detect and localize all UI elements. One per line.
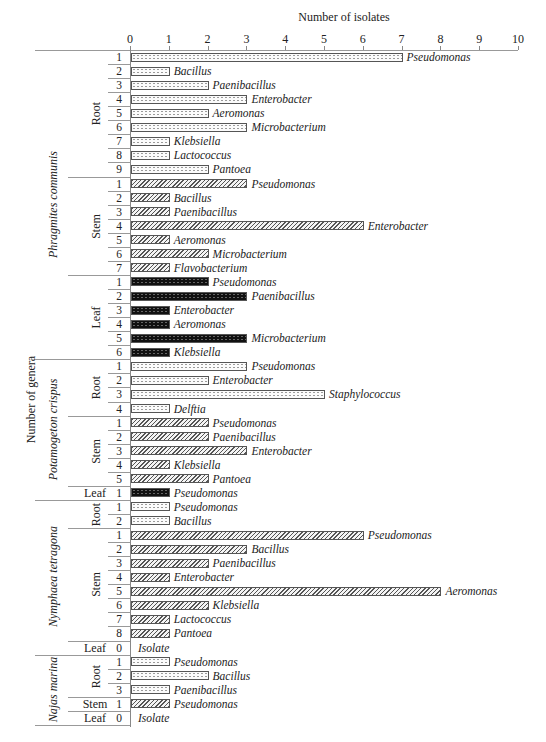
bar-stem [131, 249, 209, 258]
organ-label: Stem [75, 697, 115, 712]
x-tick-label: 0 [120, 32, 140, 47]
bar-root [131, 81, 209, 90]
bar-stem [131, 207, 170, 216]
genus-label: Pseudomonas [407, 50, 471, 64]
row-number: 1 [112, 177, 126, 191]
organ-label: Leaf [75, 711, 115, 726]
bar-stem [131, 629, 170, 638]
row-number: 6 [112, 247, 126, 261]
x-tick-label: 2 [198, 32, 218, 47]
x-tick-label: 8 [430, 32, 450, 47]
bar-root [131, 390, 325, 399]
genus-label: Bacillus [174, 514, 212, 528]
bar-root [131, 109, 209, 118]
row-number: 4 [112, 219, 126, 233]
genus-label: Enterobacter [174, 570, 234, 584]
bar-root [131, 657, 170, 666]
bar-root [131, 404, 170, 413]
genus-label: Enterobacter [251, 92, 311, 106]
row-number: 3 [112, 387, 126, 401]
species-label: Phragmites communis [46, 124, 61, 284]
organ-label: Stem [89, 426, 104, 476]
genus-label: Delftia [174, 402, 206, 416]
species-label: Najas marina [46, 609, 61, 742]
genus-label: Lactococcus [174, 148, 231, 162]
genus-label: Paenibacillus [213, 430, 276, 444]
x-tick-label: 9 [469, 32, 489, 47]
genus-label: Aeromonas [174, 317, 226, 331]
bar-leaf [131, 334, 247, 343]
bar-stem [131, 699, 170, 708]
genus-label: Klebsiella [174, 458, 221, 472]
genus-label: Klebsiella [174, 345, 221, 359]
genus-label: Pantoea [213, 472, 251, 486]
row-number: 6 [112, 598, 126, 612]
x-tick-label: 6 [353, 32, 373, 47]
organ-label: Stem [89, 560, 104, 610]
genus-label: Isolate [138, 711, 169, 725]
row-number: 8 [112, 148, 126, 162]
bar-root [131, 95, 247, 104]
genus-label: Bacillus [174, 64, 212, 78]
bar-root [131, 137, 170, 146]
bar-root [131, 53, 403, 62]
row-number: 5 [112, 233, 126, 247]
genus-label: Bacillus [251, 542, 289, 556]
row-number: 1 [112, 528, 126, 542]
genus-label: Enterobacter [174, 303, 234, 317]
row-number: 1 [112, 275, 126, 289]
genus-label: Microbacterium [213, 247, 287, 261]
genus-label: Pseudomonas [368, 528, 432, 542]
bar-stem [131, 446, 247, 455]
genus-label: Aeromonas [174, 233, 226, 247]
bar-stem [131, 573, 170, 582]
genus-label: Bacillus [213, 669, 251, 683]
genus-label: Pantoea [174, 626, 212, 640]
row-number: 2 [112, 514, 126, 528]
row-number: 5 [112, 472, 126, 486]
genus-label: Pseudomonas [174, 655, 238, 669]
genus-label: Microbacterium [251, 120, 325, 134]
bar-root [131, 67, 170, 76]
bar-stem [131, 601, 209, 610]
genus-label: Paenibacillus [174, 205, 237, 219]
genus-label: Aeromonas [445, 584, 497, 598]
bar-stem [131, 531, 364, 540]
genus-label: Lactococcus [174, 612, 231, 626]
row-number: 8 [112, 626, 126, 640]
row-number: 3 [112, 556, 126, 570]
row-number: 4 [112, 402, 126, 416]
organ-label: Root [89, 89, 104, 139]
bar-stem [131, 263, 170, 272]
row-number: 7 [112, 612, 126, 626]
species-label: Potamogeton crispus [46, 349, 61, 509]
genus-label: Paenibacillus [174, 683, 237, 697]
row-number: 2 [112, 542, 126, 556]
organ-label: Stem [89, 201, 104, 251]
bar-stem [131, 235, 170, 244]
organ-label: Root [89, 489, 104, 539]
genus-label: Enterobacter [213, 373, 273, 387]
row-number: 2 [112, 289, 126, 303]
bar-leaf [131, 488, 170, 497]
row-number: 7 [112, 261, 126, 275]
organ-label: Root [89, 651, 104, 701]
bar-root [131, 165, 209, 174]
row-number: 1 [112, 416, 126, 430]
bar-root [131, 685, 170, 694]
genus-label: Pseudomonas [251, 177, 315, 191]
bar-stem [131, 545, 247, 554]
x-tick-label: 5 [314, 32, 334, 47]
bar-stem [131, 460, 170, 469]
genus-label: Klebsiella [213, 598, 260, 612]
bar-leaf [131, 306, 170, 315]
row-number: 2 [112, 64, 126, 78]
x-tick-label: 1 [159, 32, 179, 47]
bar-root [131, 376, 209, 385]
row-number: 2 [112, 669, 126, 683]
bar-leaf [131, 277, 209, 286]
genus-label: Bacillus [174, 191, 212, 205]
bar-root [131, 151, 170, 160]
row-number: 2 [112, 430, 126, 444]
genus-label: Enterobacter [251, 444, 311, 458]
